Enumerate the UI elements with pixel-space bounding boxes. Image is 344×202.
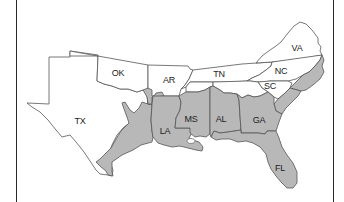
southern-states-map [0, 0, 344, 202]
label-fl: FL [275, 164, 285, 173]
label-va: VA [292, 44, 303, 53]
label-ga: GA [253, 116, 266, 125]
label-ar: AR [163, 76, 175, 85]
label-la: LA [160, 127, 171, 136]
lake-pontchartrain [187, 139, 195, 144]
label-tn: TN [213, 70, 225, 79]
label-ok: OK [112, 69, 125, 78]
label-al: AL [216, 115, 227, 124]
label-nc: NC [275, 67, 288, 76]
label-ms: MS [184, 115, 197, 124]
state-fl [211, 130, 297, 188]
label-sc: SC [264, 82, 276, 91]
state-ga [237, 92, 282, 134]
label-tx: TX [74, 117, 85, 126]
state-al [210, 86, 241, 137]
